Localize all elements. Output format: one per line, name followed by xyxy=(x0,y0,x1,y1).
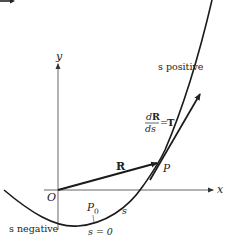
point-P-label: P xyxy=(162,162,171,174)
P0-tick xyxy=(93,215,94,223)
space-curve xyxy=(4,0,212,226)
point-P0-label: P 0 xyxy=(86,201,99,216)
s-negative-label: s negative xyxy=(9,223,59,234)
arc-length-label: s xyxy=(122,205,127,216)
origin-label: O xyxy=(47,191,56,204)
x-axis-label: x xyxy=(217,183,224,196)
tangent-vector-T xyxy=(150,94,200,180)
position-vector-label: R xyxy=(116,160,126,173)
s-zero-label: s = 0 xyxy=(88,226,113,237)
derivative-denominator: ds xyxy=(145,123,156,134)
derivative-num-R: R xyxy=(152,111,160,122)
tangent-symbol-T: T xyxy=(167,117,175,128)
cropped-arrow-fragment xyxy=(0,0,15,4)
curve-diagram: y x O s positive dR ds = T R P P 0 s s n… xyxy=(0,0,227,237)
svg-text:dR: dR xyxy=(146,111,160,122)
s-positive-label: s positive xyxy=(158,61,204,72)
y-axis-label: y xyxy=(55,50,63,63)
derivative-label: dR ds = T xyxy=(145,111,175,134)
svg-text:0: 0 xyxy=(94,207,99,216)
